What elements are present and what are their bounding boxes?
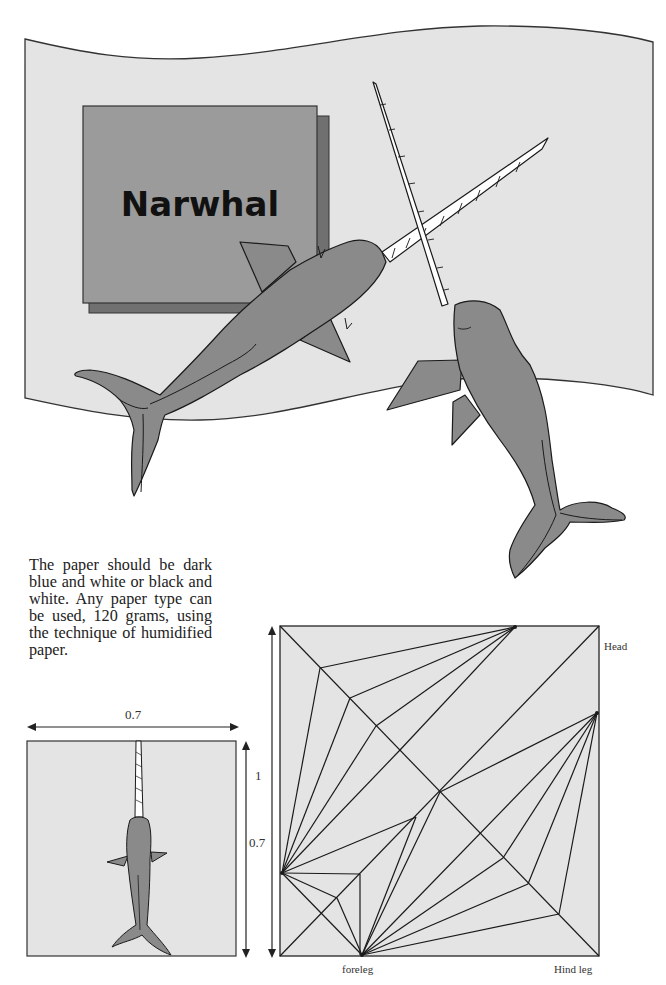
origami-instruction-page: Narwhal The paper should be dark blue an… <box>0 0 666 985</box>
crease-pattern <box>268 625 599 958</box>
model-width-label: 0.7 <box>125 707 141 723</box>
crease-label-foreleg: foreleg <box>342 963 373 975</box>
crease-label-hind-leg: Hind leg <box>554 963 592 975</box>
square-size-label: 1 <box>255 768 262 784</box>
crease-label-head: Head <box>604 640 627 652</box>
model-height-label: 0.7 <box>249 835 265 851</box>
paper-description: The paper should be dark blue and white … <box>29 557 212 659</box>
page-title: Narwhal <box>83 106 317 303</box>
model-size-diagram <box>27 723 250 958</box>
